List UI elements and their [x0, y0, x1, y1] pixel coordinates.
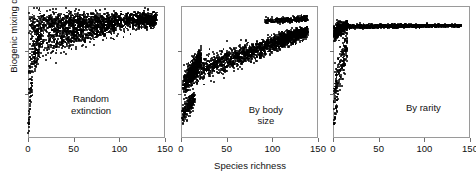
x-axis-tick-100 — [424, 138, 425, 142]
x-axis-tick-50 — [379, 138, 380, 142]
panel-label-by-body-size: By body size — [240, 104, 292, 127]
x-axis-ticklabel-50: 50 — [68, 143, 79, 154]
x-axis-tick-150 — [470, 138, 471, 142]
y-axis-tick-0 — [25, 94, 29, 95]
x-axis-ticklabel-100: 100 — [264, 143, 280, 154]
panel-label-by-rarity: By rarity — [406, 102, 441, 114]
x-axis-tick-100 — [119, 138, 120, 142]
y-axis-tick-0 — [330, 94, 334, 95]
x-axis-tick-50 — [227, 138, 228, 142]
x-axis-ticklabel-0: 0 — [330, 143, 335, 154]
figure-root: Biogenic mixing depth (cm) Random extinc… — [0, 0, 476, 180]
y-axis-title: Biogenic mixing depth (cm) — [8, 0, 19, 83]
y-axis-tick-1 — [178, 51, 182, 52]
panel-label-random-extinction: Random extinction — [71, 93, 111, 116]
x-axis-tick-0 — [28, 138, 29, 142]
scatter-panel-random-extinction: Random extinction — [28, 6, 165, 138]
y-axis-title-container: Biogenic mixing depth (cm) — [0, 2, 20, 150]
y-axis-tick-1 — [25, 51, 29, 52]
x-axis-tick-50 — [74, 138, 75, 142]
x-axis-ticklabel-150: 150 — [310, 143, 326, 154]
x-axis-ticklabel-50: 50 — [373, 143, 384, 154]
x-axis-tick-100 — [272, 138, 273, 142]
x-axis-tick-0 — [181, 138, 182, 142]
scatter-panel-by-rarity: By rarity — [333, 6, 470, 138]
x-axis-ticklabel-0: 0 — [25, 143, 30, 154]
x-axis-ticklabel-150: 150 — [157, 143, 173, 154]
x-axis-title: Species richness — [214, 160, 286, 171]
y-axis-tick-1 — [330, 51, 334, 52]
scatter-panel-by-body-size: By body size — [181, 6, 318, 138]
plot-area — [28, 6, 165, 138]
x-axis-tick-0 — [333, 138, 334, 142]
x-axis-tick-150 — [165, 138, 166, 142]
x-axis-ticklabel-150: 150 — [462, 143, 476, 154]
x-axis-ticklabel-0: 0 — [178, 143, 183, 154]
x-axis-ticklabel-50: 50 — [221, 143, 232, 154]
plot-area — [333, 6, 470, 138]
x-axis-tick-150 — [318, 138, 319, 142]
x-axis-ticklabel-100: 100 — [416, 143, 432, 154]
y-axis-tick-0 — [178, 94, 182, 95]
x-axis-ticklabel-100: 100 — [111, 143, 127, 154]
